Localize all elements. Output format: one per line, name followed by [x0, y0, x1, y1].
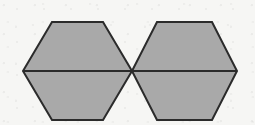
hexagon-diagram: Two adjacent hexagons Two shaded regular…: [0, 0, 255, 125]
figure-canvas: Two adjacent hexagons Two shaded regular…: [0, 0, 255, 125]
right-hexagon-group: [132, 22, 237, 120]
left-hexagon-group: [23, 22, 132, 120]
